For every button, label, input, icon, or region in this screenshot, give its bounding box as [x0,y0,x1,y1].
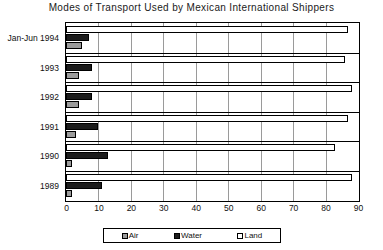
x-axis-tick-label: 80 [321,203,330,213]
legend-item-water[interactable]: Water [174,231,202,240]
legend-swatch-icon [174,233,180,239]
category-separator [66,53,359,54]
bar-water [66,93,92,100]
bar-water [66,64,92,71]
y-axis-tick-label: Jan-Jun 1994 [7,33,59,43]
bar-air [66,101,79,108]
legend-label: Land [244,231,262,240]
x-axis-tick-label: 0 [64,203,69,213]
bar-group [66,141,359,171]
bar-water [66,152,108,159]
y-axis-tick-label: 1993 [40,63,59,73]
y-axis-tick-label: 1991 [40,122,59,132]
bar-group [66,82,359,112]
category-separator [66,82,359,83]
category-separator [66,141,359,142]
y-axis-tick-label: 1992 [40,92,59,102]
bar-air [66,160,72,167]
bar-group [66,171,359,201]
x-axis-tick-label: 40 [192,203,201,213]
bar-land [66,144,335,151]
bar-land [66,174,352,181]
legend-item-land[interactable]: Land [237,231,262,240]
bar-land [66,85,352,92]
x-axis-tick-label: 10 [94,203,103,213]
y-axis-tick-label: 1989 [40,181,59,191]
x-axis-tick-label: 20 [127,203,136,213]
bar-land [66,26,348,33]
bar-land [66,115,348,122]
bar-water [66,123,98,130]
bar-land [66,56,345,63]
x-axis-tick-label: 60 [256,203,265,213]
legend-label: Water [181,231,202,240]
bar-group [66,53,359,83]
category-separator [66,171,359,172]
plot-area [65,22,360,202]
bar-group [66,23,359,53]
legend-item-air[interactable]: Air [122,231,139,240]
bar-air [66,42,82,49]
chart-container: Modes of Transport Used by Mexican Inter… [0,0,383,250]
x-axis-tick-label: 30 [159,203,168,213]
x-axis-labels: 0102030405060708090 [0,203,383,219]
legend-swatch-icon [122,233,128,239]
bar-air [66,190,72,197]
legend-swatch-icon [237,233,243,239]
category-separator [66,112,359,113]
legend-label: Air [129,231,139,240]
bar-air [66,131,76,138]
bar-group [66,112,359,142]
x-axis-tick-label: 70 [289,203,298,213]
bar-water [66,34,89,41]
bar-groups [66,23,359,201]
y-axis-labels: Jan-Jun 199419931992199119901989 [0,22,62,202]
x-axis-tick-label: 90 [354,203,363,213]
x-axis-tick-label: 50 [224,203,233,213]
chart-legend: AirWaterLand [103,228,281,243]
bar-water [66,182,102,189]
bar-air [66,72,79,79]
y-axis-tick-label: 1990 [40,151,59,161]
chart-title: Modes of Transport Used by Mexican Inter… [0,2,383,13]
